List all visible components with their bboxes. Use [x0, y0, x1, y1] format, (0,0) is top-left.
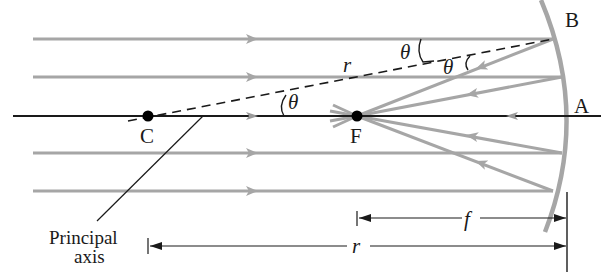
label-theta-at-C: θ	[288, 90, 298, 114]
dimension-focal-length: f	[357, 207, 566, 231]
reflected-ray-2	[357, 77, 562, 116]
label-F: F	[350, 124, 362, 148]
label-B: B	[565, 8, 579, 32]
label-r-on-line: r	[343, 53, 352, 77]
label-C: C	[140, 124, 154, 148]
reflected-ray-4	[357, 116, 562, 153]
label-theta-incident: θ	[400, 40, 410, 64]
theta-arc-reflected	[466, 56, 470, 70]
dimension-radius: r	[148, 234, 566, 258]
label-A: A	[574, 94, 590, 118]
theta-arc-at-C	[281, 95, 286, 116]
label-theta-reflected: θ	[443, 55, 453, 79]
theta-arc-incident	[419, 39, 434, 62]
point-F	[352, 111, 363, 122]
label-f: f	[464, 207, 473, 231]
concave-mirror-diagram: C F A B θ θ θ r Principal axis f r	[0, 0, 615, 272]
point-C	[143, 111, 154, 122]
principal-axis-caption-line2: axis	[74, 246, 105, 267]
principal-axis-caption-line1: Principal	[49, 227, 118, 248]
label-r-dimension: r	[352, 234, 361, 258]
